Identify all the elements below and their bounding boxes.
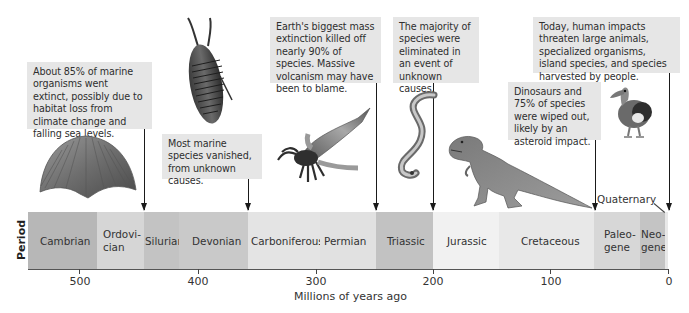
arrow-devonian-end — [248, 179, 249, 210]
period-axis-label: Period — [15, 220, 28, 260]
period-paleogene: Paleo- gene — [594, 212, 640, 269]
axis-tick — [316, 269, 317, 274]
period-label: Permian — [324, 234, 366, 247]
axis-title: Millions of years ago — [294, 290, 407, 303]
dodo-illustration — [608, 82, 656, 142]
period-triassic: Triassic — [376, 212, 433, 269]
period-label: Paleo- gene — [604, 228, 636, 254]
axis-tick — [433, 269, 434, 274]
trilobite-illustration — [184, 16, 236, 128]
period-neogene: Neo- gene — [640, 212, 665, 269]
period-label: Neo- gene — [641, 228, 667, 254]
sea-scorpion-illustration — [274, 104, 379, 190]
period-label: Carboniferous — [251, 234, 324, 247]
period-permian: Permian — [320, 212, 376, 269]
period-label: Triassic — [387, 234, 425, 247]
axis-tick-label: 200 — [423, 275, 444, 288]
tyrannosaurus-illustration — [448, 132, 598, 212]
quaternary-label: Quaternary — [597, 193, 656, 205]
axis-tick-label: 500 — [70, 275, 91, 288]
period-label-line1: Paleo- — [604, 228, 636, 240]
axis-tick — [668, 269, 669, 274]
period-carboniferous: Carboniferous — [248, 212, 320, 269]
period-label: Ordovi- cian — [103, 228, 141, 254]
period-label-line2: cian — [103, 241, 125, 253]
callout-triassic-extinction: The majority of species were eliminated … — [393, 17, 479, 83]
axis-tick — [198, 269, 199, 274]
callout-ordovician-extinction: About 85% of marine organisms went extin… — [27, 62, 152, 129]
eel-like-fish-illustration — [392, 89, 442, 179]
axis-tick-label: 100 — [541, 275, 562, 288]
period-devonian: Devonian — [179, 212, 248, 269]
period-label: Cambrian — [40, 234, 90, 247]
period-label-line1: Neo- — [641, 228, 665, 240]
period-cambrian: Cambrian — [28, 212, 97, 269]
period-bar: Cambrian Ordovi- cian Silurian Devonian … — [28, 212, 668, 269]
brachiopod-fossil-illustration — [36, 132, 140, 200]
period-cretaceous: Cretaceous — [499, 212, 594, 269]
axis-tick — [550, 269, 551, 274]
period-label: Jurassic — [447, 234, 487, 247]
period-label-line2: gene — [604, 241, 630, 253]
period-quaternary — [665, 212, 668, 269]
callout-permian-extinction: Earth's biggest mass extinction killed o… — [270, 17, 381, 83]
axis-tick-label: 300 — [306, 275, 327, 288]
callout-today-extinction: Today, human impacts threaten large anim… — [533, 17, 680, 73]
axis-tick — [79, 269, 80, 274]
period-label: Cretaceous — [521, 234, 580, 247]
period-label-line2: gene — [641, 241, 667, 253]
axis-tick-label: 400 — [188, 275, 209, 288]
period-label: Devonian — [192, 234, 241, 247]
axis-tick-label: 0 — [666, 275, 673, 288]
period-label-line1: Ordovi- — [103, 228, 141, 240]
period-silurian: Silurian — [144, 212, 179, 269]
period-jurassic: Jurassic — [433, 212, 499, 269]
callout-devonian-extinction: Most marine species vanished, from unkno… — [162, 134, 262, 179]
arrow-ordovician-end — [144, 129, 145, 210]
period-ordovician: Ordovi- cian — [97, 212, 144, 269]
arrow-today — [669, 73, 670, 210]
time-axis-line — [28, 269, 669, 270]
